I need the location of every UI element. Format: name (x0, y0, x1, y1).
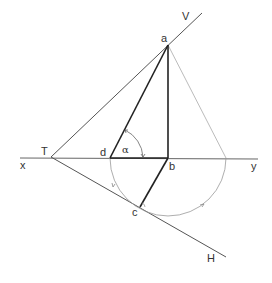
label-y: y (251, 160, 257, 172)
label-alpha: α (122, 144, 129, 155)
label-v: V (182, 10, 190, 22)
label-c: c (132, 206, 138, 218)
label-h: H (207, 252, 215, 264)
label-a: a (161, 32, 168, 44)
label-x: x (20, 159, 26, 171)
label-b: b (169, 160, 175, 172)
label-t: T (41, 145, 48, 157)
arc-arrow-left (112, 183, 115, 187)
rotation-arc (110, 158, 226, 216)
line-a-d (110, 45, 168, 158)
label-d: d (100, 146, 106, 158)
vertical-trace-v (51, 13, 202, 157)
line-b-c (140, 158, 168, 207)
diagram-canvas: V a T x d α b y c H (0, 0, 272, 283)
construction-line-a (168, 45, 226, 158)
